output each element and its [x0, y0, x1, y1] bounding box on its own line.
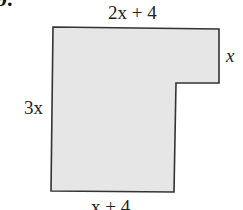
right-side-label: x [226, 45, 234, 67]
bottom-side-label: x + 4 [91, 196, 130, 210]
top-side-label: 2x + 4 [108, 2, 157, 24]
left-side-label: 3x [24, 97, 43, 119]
l-shape-polygon [51, 27, 219, 192]
